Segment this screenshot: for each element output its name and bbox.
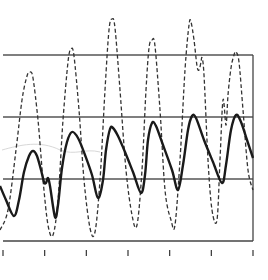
line-chart (0, 0, 268, 280)
dashed-series-line (0, 19, 253, 237)
x-axis-ticks (3, 250, 253, 256)
solid-series-line (0, 115, 253, 218)
